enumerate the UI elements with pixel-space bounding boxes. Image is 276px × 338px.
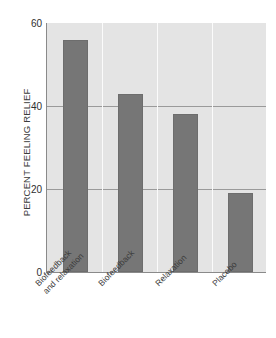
y-tick-label-60: 60 [2, 18, 42, 29]
bar-biofeedback-and-relaxation[interactable] [63, 40, 88, 272]
y-tick-label-0: 0 [2, 267, 42, 278]
y-axis-tick-labels: 60 40 20 0 [0, 0, 42, 338]
bar-chart-figure: PERCENT FEELING RELIEF 60 40 20 0 Biofee… [0, 0, 276, 338]
category-separator-3 [212, 23, 213, 272]
bar-relaxation[interactable] [173, 114, 198, 272]
category-separator-2 [157, 23, 158, 272]
plot-area [46, 23, 266, 273]
category-separator-1 [102, 23, 103, 272]
bar-biofeedback[interactable] [118, 94, 143, 272]
y-tick-label-20: 20 [2, 184, 42, 195]
y-tick-label-40: 40 [2, 101, 42, 112]
